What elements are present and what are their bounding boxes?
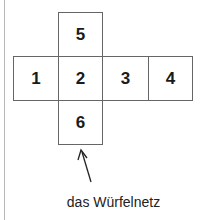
arrow-icon xyxy=(0,0,209,220)
diagram-caption: das Würfelnetz xyxy=(0,194,209,210)
